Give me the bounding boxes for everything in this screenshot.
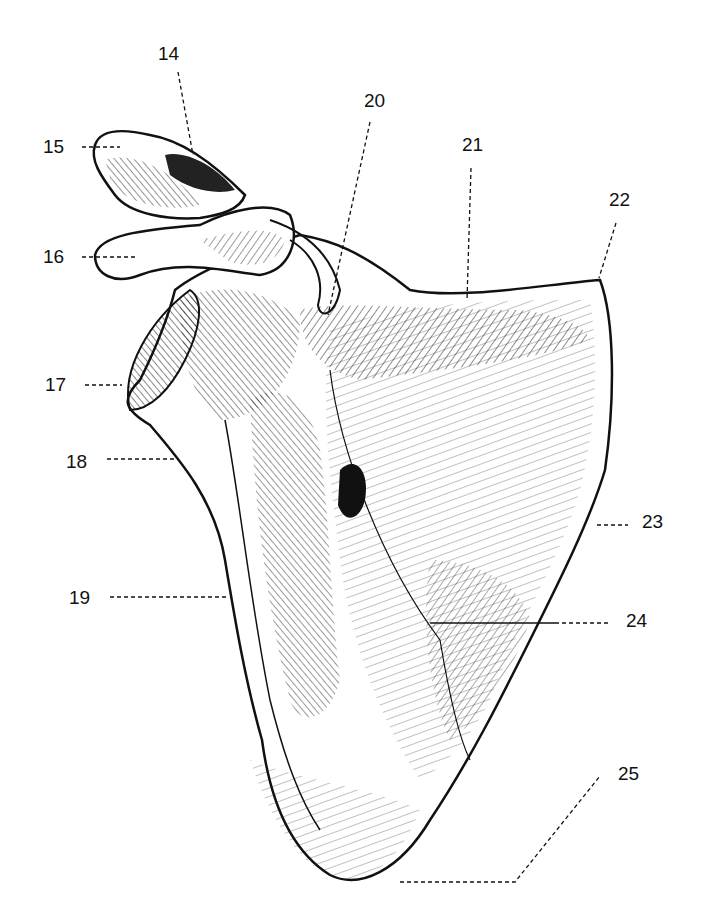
callout-22: 22 (609, 190, 630, 209)
scapula-drawing (0, 0, 701, 921)
callout-20: 20 (364, 91, 385, 110)
callout-25: 25 (618, 764, 639, 783)
callout-18: 18 (66, 452, 87, 471)
callout-16: 16 (43, 247, 64, 266)
callout-19: 19 (69, 588, 90, 607)
callout-24: 24 (626, 611, 647, 630)
leader-22 (599, 223, 616, 278)
scapula-illustration: 14 15 16 17 18 19 20 21 22 23 24 25 (0, 0, 701, 921)
callout-15: 15 (43, 137, 64, 156)
callout-14: 14 (158, 44, 179, 63)
callout-17: 17 (45, 375, 66, 394)
leader-21 (467, 168, 471, 300)
callout-23: 23 (642, 512, 663, 531)
callout-21: 21 (462, 135, 483, 154)
leader-14 (178, 72, 193, 155)
